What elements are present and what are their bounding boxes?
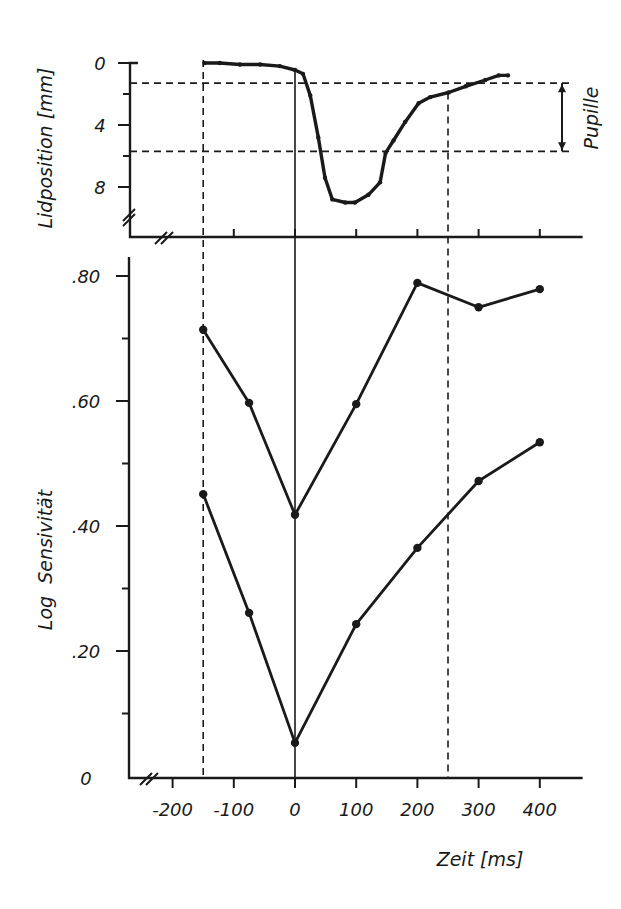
bottom-x-tick-label: 100 [339,799,373,820]
pupille-annotation: Pupille [580,86,602,149]
bottom-y-tick-label: 0 [80,768,91,789]
sensitivity-point-lower [413,544,421,552]
lid-position-point [483,78,487,82]
sensitivity-point-lower [474,477,482,485]
top-y-tick-label: 4 [94,115,105,136]
sensitivity-point-lower [291,739,299,747]
sensitivity-point-lower [199,490,207,498]
lid-position-point [308,93,312,97]
lid-position-point [506,73,510,77]
bottom-y-tick-label: .80 [72,266,101,287]
sensitivity-point-upper [413,279,421,287]
bottom-y-tick-label: .40 [72,516,101,537]
lid-position-panel: 048 [94,53,582,778]
lid-position-point [378,180,382,184]
lid-position-point [497,73,501,77]
lid-position-line [204,63,508,203]
lid-position-point [428,95,432,99]
top-y-tick-label: 0 [94,53,105,74]
sensitivity-line-lower [203,442,540,743]
x-axis-label: Zeit [ms] [436,848,524,870]
chart: 048 .80.60.40.200-200-1000100200300400 L… [0,0,621,909]
bottom-axes [129,257,583,778]
sensitivity-point-lower [245,609,253,617]
sensitivity-point-lower [352,620,360,628]
lid-position-point [330,197,334,201]
sensitivity-point-upper [474,303,482,311]
bottom-y-tick-label: .20 [72,641,101,662]
lid-position-point [366,193,370,197]
bottom-y-axis-label: Log Sensivität [34,488,56,630]
lid-position-point [464,84,468,88]
sensitivity-point-upper [291,511,299,519]
lid-position-point [258,62,262,66]
sensitivity-line-upper [203,283,540,515]
lid-position-point [383,151,387,155]
sensitivity-point-lower [536,438,544,446]
pupil-arrow-down [558,142,566,150]
bottom-x-tick-label: 0 [289,799,300,820]
top-y-tick-label: 8 [94,177,105,198]
lid-position-point [218,61,222,65]
sensitivity-point-upper [199,326,207,334]
bottom-x-tick-label: -200 [152,799,193,820]
lid-position-point [316,135,320,139]
sensitivity-point-upper [352,400,360,408]
lid-position-point [391,138,395,142]
lid-position-point [238,62,242,66]
top-axes [130,63,583,237]
lid-position-point [353,200,357,204]
sensitivity-panel: .80.60.40.200-200-1000100200300400 [72,257,583,820]
sensitivity-point-upper [245,399,253,407]
lid-position-point [403,120,407,124]
lid-position-point [301,72,305,76]
lid-position-point [323,176,327,180]
bottom-y-tick-label: .60 [72,391,101,412]
bottom-x-tick-label: 200 [400,799,434,820]
bottom-x-tick-label: -100 [213,799,254,820]
bottom-x-tick-label: 400 [523,799,557,820]
lid-position-point [416,101,420,105]
pupil-arrow-up [558,84,566,92]
sensitivity-point-upper [536,285,544,293]
top-y-axis-label: Lidposition [mm] [34,67,56,228]
bottom-x-tick-label: 300 [461,799,495,820]
lid-position-point [343,200,347,204]
lid-position-point [278,64,282,68]
